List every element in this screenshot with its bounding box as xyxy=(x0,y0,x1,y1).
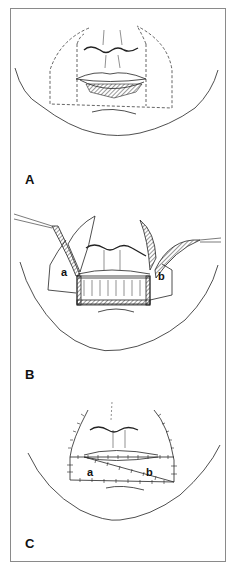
panel-b-drawing xyxy=(14,214,221,351)
panel-label-b: B xyxy=(25,367,34,382)
panel-label-c: C xyxy=(25,536,34,551)
panel-c-drawing xyxy=(28,402,220,520)
flap-label-a-c: a xyxy=(87,466,94,478)
panel-a-drawing xyxy=(15,26,218,136)
panel-label-a: A xyxy=(25,172,34,187)
flap-label-b-c: b xyxy=(146,466,153,478)
surgical-illustration: a b a b xyxy=(0,0,234,571)
flap-label-b-b: b xyxy=(158,270,165,282)
flap-label-a-b: a xyxy=(61,266,68,278)
